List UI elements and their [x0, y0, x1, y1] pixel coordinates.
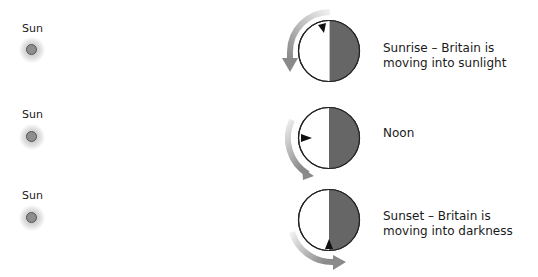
caption-noon: Noon	[383, 126, 538, 141]
earth-sunset	[292, 190, 360, 271]
earth-sunrise	[282, 12, 360, 82]
caption-sunset: Sunset – Britain is moving into darkness	[383, 209, 538, 239]
rotation-arrow-head	[282, 58, 298, 72]
earth-noon	[288, 108, 360, 181]
caption-sunrise: Sunrise – Britain is moving into sunligh…	[383, 41, 538, 71]
rotation-arrow-head	[333, 255, 346, 270]
rotation-arrow-head	[302, 168, 314, 180]
